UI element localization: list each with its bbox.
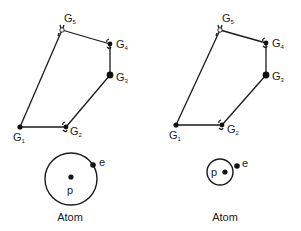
atom-figure: peAtom [207, 157, 248, 223]
node-label: G1 [169, 129, 182, 142]
hinge-joint-icon [264, 41, 269, 46]
diagram-canvas: G1G2G3G4G5peAtom G1G2G3G4G5peAtom [0, 0, 301, 231]
proton-label: p [67, 184, 73, 196]
node-label: G1 [13, 131, 26, 144]
node-g3: G3 [107, 71, 129, 84]
edge-line [20, 30, 62, 127]
node-label: G5 [222, 12, 235, 25]
hinge-arc-icon [219, 128, 223, 130]
proton-dot-icon [222, 169, 227, 174]
node-label: G2 [227, 123, 240, 136]
edge-line [66, 75, 110, 127]
hinge-arc-icon [107, 39, 109, 42]
node-label: G4 [272, 37, 285, 50]
joint-dot-icon [173, 122, 178, 127]
proton-dot-icon [68, 174, 73, 179]
node-label: G3 [272, 70, 285, 83]
node-g2: G2 [63, 122, 83, 138]
hinge-joint-icon [108, 42, 113, 47]
edge-line [220, 30, 266, 43]
hinge-arc-icon [219, 120, 221, 123]
hinge-arc-icon [263, 38, 265, 41]
electron-dot-icon [234, 163, 240, 169]
hinge-arc-icon [263, 46, 267, 48]
hinge-arc-icon [63, 122, 65, 125]
node-g2: G2 [219, 120, 240, 136]
open-joint-icon [218, 28, 222, 32]
joint-dot-icon [17, 124, 22, 129]
open-joint-icon [60, 28, 64, 32]
joint-dot-icon [107, 72, 114, 79]
node-g4: G4 [107, 38, 129, 51]
node-g3: G3 [263, 70, 285, 83]
node-label: G5 [64, 12, 77, 25]
proton-label: p [211, 166, 217, 178]
electron-dot-icon [90, 162, 96, 168]
hinge-arc-icon [107, 47, 111, 49]
electron-label: e [99, 156, 105, 168]
atom-figure: peAtom [45, 153, 105, 223]
node-label: G2 [70, 125, 83, 138]
node-label: G3 [116, 71, 129, 84]
hinge-arc-icon [63, 130, 67, 132]
atom-caption: Atom [57, 211, 83, 223]
node-label: G4 [116, 38, 129, 51]
hinge-tick-icon [58, 33, 59, 36]
node-g4: G4 [263, 37, 285, 50]
edge-line [62, 30, 110, 44]
atom-caption: Atom [212, 211, 238, 223]
hinge-joint-icon [220, 123, 225, 128]
edge-line [222, 75, 266, 125]
joint-dot-icon [263, 72, 270, 79]
right-panel: G1G2G3G4G5peAtom [169, 12, 285, 223]
left-panel: G1G2G3G4G5peAtom [13, 12, 129, 223]
hinge-joint-icon [64, 125, 69, 130]
electron-label: e [242, 157, 248, 169]
edge-line [176, 30, 220, 125]
